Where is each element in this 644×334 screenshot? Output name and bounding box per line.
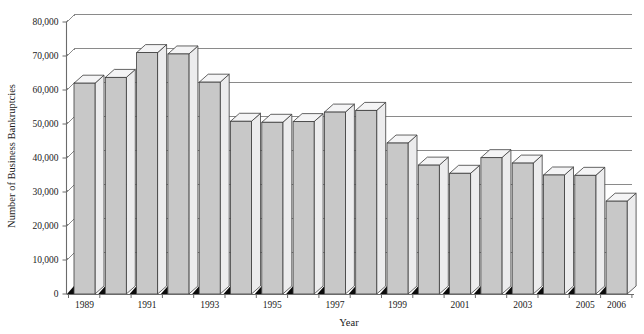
bar-front-face [544, 175, 565, 294]
x-tick-label-1997: 1997 [325, 300, 344, 310]
bar-side-face [439, 157, 448, 294]
bar-side-face [408, 135, 417, 294]
bar-side-face [220, 74, 229, 294]
bar-side-face [502, 150, 511, 294]
bar-front-face [137, 53, 158, 294]
bar-side-face [95, 75, 104, 294]
y-tick-label: 40,000 [32, 153, 58, 163]
bar-side-face [565, 167, 574, 294]
y-tick-label: 30,000 [32, 187, 58, 197]
bar-front-face [168, 54, 189, 294]
x-tick-label-1999: 1999 [388, 300, 407, 310]
y-tick-label: 80,000 [32, 17, 58, 27]
y-tick-label-group: 80,00070,00060,00050,00040,00030,00020,0… [32, 17, 58, 299]
bar-front-face [418, 165, 439, 294]
x-tick-label-2003: 2003 [513, 300, 532, 310]
y-tick-label: 60,000 [32, 85, 58, 95]
bar-side-face [627, 193, 636, 294]
y-axis-title: Number of Business Bankruptcies [6, 84, 17, 228]
y-tick-label: 10,000 [32, 255, 58, 265]
bar-side-face [314, 114, 323, 294]
bar-front-face [199, 82, 220, 294]
bar-front-face [575, 175, 596, 294]
bar-side-face [345, 104, 354, 294]
x-tick-label-1995: 1995 [263, 300, 282, 310]
y-tick-label: 0 [54, 289, 59, 299]
bar-side-face [377, 102, 386, 294]
x-tick-label-1991: 1991 [138, 300, 157, 310]
chart-canvas: 80,00070,00060,00050,00040,00030,00020,0… [0, 0, 644, 334]
x-tick-label-2001: 2001 [451, 300, 470, 310]
bar-front-face [450, 173, 471, 294]
bar-front-face [481, 158, 502, 294]
bar-front-face [356, 110, 377, 294]
bar-side-face [283, 114, 292, 294]
bar-front-face [512, 163, 533, 294]
bar-side-face [471, 165, 480, 294]
bar-side-face [158, 45, 167, 294]
bar-front-face [606, 201, 627, 294]
bar-front-face [293, 122, 314, 294]
bar-front-face [231, 121, 252, 294]
bar-front-face [105, 77, 126, 294]
bar-side-face [189, 46, 198, 294]
bar-front-face [387, 143, 408, 294]
bar-front-face [324, 112, 345, 294]
y-tick-label: 50,000 [32, 119, 58, 129]
x-tick-label-2006: 2006 [607, 300, 626, 310]
x-axis-title: Year [339, 317, 359, 328]
bar-front-face [262, 122, 283, 294]
x-tick-label-1989: 1989 [75, 300, 94, 310]
y-tick-label: 20,000 [32, 221, 58, 231]
business-bankruptcies-bar-chart: 80,00070,00060,00050,00040,00030,00020,0… [0, 0, 644, 334]
bar-side-face [252, 113, 261, 294]
bar-side-face [533, 155, 542, 294]
bar-side-face [126, 69, 135, 294]
bar-front-face [74, 83, 95, 294]
x-tick-label-1993: 1993 [200, 300, 219, 310]
y-tick-label: 70,000 [32, 51, 58, 61]
bar-side-face [596, 167, 605, 294]
x-tick-label-2005: 2005 [576, 300, 595, 310]
